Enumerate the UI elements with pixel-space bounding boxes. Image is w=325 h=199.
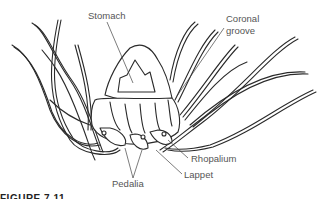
label-coronal-groove-line2: groove bbox=[226, 26, 255, 36]
label-lappet: Lappet bbox=[184, 170, 213, 180]
jellyfish-illustration bbox=[0, 0, 325, 199]
label-pedalia: Pedalia bbox=[112, 179, 144, 189]
figure-caption: FIGURE 7.11 bbox=[0, 193, 65, 199]
bell bbox=[91, 45, 179, 149]
jellyfish-diagram: Stomach Coronal groove Rhopalium Lappet … bbox=[0, 0, 325, 199]
label-rhopalium: Rhopalium bbox=[191, 154, 236, 164]
label-coronal-groove-line1: Coronal bbox=[226, 14, 259, 24]
lappet-leader bbox=[156, 150, 182, 174]
coronal-groove-leader bbox=[177, 28, 224, 96]
label-stomach: Stomach bbox=[88, 11, 126, 21]
pedalia-leader-2 bbox=[133, 150, 142, 178]
pedalia-leader-1 bbox=[125, 148, 133, 178]
tentacles-left bbox=[12, 20, 120, 160]
